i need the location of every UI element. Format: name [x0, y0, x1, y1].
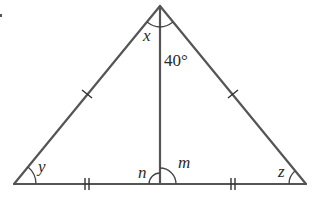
triangle-diagram: x 40° y n m z [0, 0, 317, 213]
angle-m-arc [160, 168, 176, 184]
angle-z-arc [289, 171, 295, 184]
left-side [14, 6, 160, 184]
label-n: n [138, 163, 147, 182]
label-40-degrees: 40° [164, 51, 188, 70]
angle-y-arc [28, 167, 36, 184]
angle-n-arc [149, 173, 160, 184]
label-y: y [36, 157, 46, 176]
label-z: z [277, 162, 285, 181]
label-m: m [178, 153, 190, 172]
label-x: x [142, 26, 151, 45]
corner-dot [0, 14, 2, 17]
